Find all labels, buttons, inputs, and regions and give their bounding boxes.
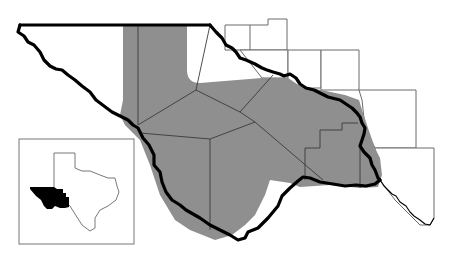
inset-locator-map <box>19 139 134 244</box>
county-north-5 <box>321 50 359 90</box>
county-line-2 <box>196 25 210 90</box>
region-map <box>0 0 451 257</box>
county-north-1 <box>225 19 287 50</box>
